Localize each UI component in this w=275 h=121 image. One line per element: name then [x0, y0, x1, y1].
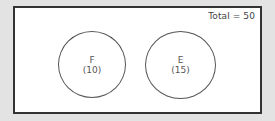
set-f-name: F	[89, 55, 94, 65]
set-e-count: (15)	[171, 65, 189, 75]
venn-diagram-frame: Total = 50 F (10) E (15)	[13, 6, 262, 114]
total-label: Total = 50	[208, 11, 255, 21]
set-circle-e: E (15)	[145, 31, 216, 99]
set-e-name: E	[178, 55, 184, 65]
set-f-count: (10)	[83, 65, 101, 75]
set-circle-f: F (10)	[58, 31, 126, 98]
